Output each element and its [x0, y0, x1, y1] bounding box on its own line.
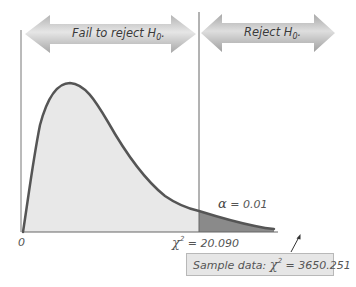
sample-data-label: Sample data: χ2 = 3650.251: [193, 257, 351, 272]
reject-text: Reject H: [244, 25, 292, 39]
alpha-symbol: α: [218, 196, 227, 211]
accept-region: [23, 83, 199, 232]
fail-to-reject-text: Fail to reject H: [72, 26, 156, 40]
sample-pointer-arrowhead: [297, 234, 301, 240]
sample-pointer-line: [291, 237, 299, 252]
alpha-value: = 0.01: [227, 198, 268, 211]
chi-symbol: χ: [172, 235, 180, 250]
fail-to-reject-suffix: .: [161, 26, 165, 40]
chi-symbol: χ: [270, 257, 278, 272]
critical-value-label: χ2 = 20.090: [172, 235, 239, 250]
sample-prefix: Sample data:: [193, 259, 270, 272]
sample-data-box: Sample data: χ2 = 3650.251: [186, 253, 334, 276]
critical-value-text: = 20.090: [184, 237, 239, 250]
reject-label: Reject H0.: [244, 25, 301, 41]
origin-label: 0: [18, 236, 25, 249]
reject-suffix: .: [298, 25, 302, 39]
fail-to-reject-label: Fail to reject H0.: [72, 26, 165, 42]
sample-value: = 3650.251: [282, 259, 351, 272]
alpha-label: α = 0.01: [218, 196, 267, 211]
